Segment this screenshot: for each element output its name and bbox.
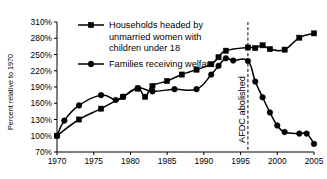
data-point-square [76,117,81,122]
data-point-circle [120,94,126,100]
x-tick-label: 1995 [231,156,250,166]
data-point-circle [304,131,310,137]
y-tick-label: 280% [31,33,53,43]
data-point-square [143,94,148,99]
data-point-square [179,72,184,77]
data-point-square [297,35,302,40]
y-tick-label: 190% [31,82,53,92]
data-point-circle [194,86,200,92]
data-point-circle [62,118,68,124]
data-point-square [223,48,228,53]
chart-figure: Percent relative to 1970 70%100%130%160%… [0,0,327,179]
data-point-circle [297,131,303,137]
y-axis-title: Percent relative to 1970 [6,54,15,130]
data-point-circle [223,55,229,61]
data-point-circle [98,92,104,98]
legend-label-text: Households headed by [109,20,203,30]
data-point-square [267,46,272,51]
legend-marker-circle [88,61,94,67]
chart-canvas: Percent relative to 1970 70%100%130%160%… [0,0,327,179]
data-point-circle [135,85,141,91]
data-point-circle [172,86,178,92]
legend-label-text: unmarried women with [109,32,201,42]
data-point-circle [216,63,222,69]
data-point-square [282,47,287,52]
x-tick-label: 1990 [195,156,214,166]
data-point-square [165,78,170,83]
y-tick-label: 250% [31,50,53,60]
x-tick-label: 1985 [158,156,177,166]
legend-marker-square [88,22,93,27]
data-point-circle [113,97,119,103]
data-point-circle [274,123,280,129]
y-tick-label: 220% [31,66,53,76]
data-point-circle [76,103,82,109]
data-point-square [150,83,155,88]
data-point-circle [208,72,214,78]
x-tick-label: 1970 [48,156,67,166]
x-tick-label: 1975 [84,156,103,166]
data-point-circle [150,89,156,95]
x-tick-label: 2000 [268,156,287,166]
y-tick-label: 160% [31,98,53,108]
y-axis-title-group: Percent relative to 1970 [6,54,15,130]
data-point-square [216,55,221,60]
data-point-square [245,45,250,50]
data-point-square [253,45,258,50]
data-point-circle [260,94,266,100]
data-point-circle [311,141,317,147]
data-point-circle [54,133,60,139]
x-tick-label: 2005 [305,156,324,166]
data-point-circle [245,58,251,64]
data-point-circle [282,129,288,135]
legend-label-text: Families receiving welfare [109,59,215,69]
y-tick-label: 310% [31,17,53,27]
data-point-circle [252,79,258,85]
data-point-square [98,106,103,111]
x-tick-label: 1980 [121,156,140,166]
data-point-square [260,43,265,48]
data-point-circle [230,58,236,64]
legend-label-text: children under 18 [109,43,180,53]
y-tick-label: 100% [31,131,53,141]
data-point-square [311,31,316,36]
y-tick-label: 130% [31,115,53,125]
data-point-circle [267,110,273,116]
afdc-abolished-label: AFDC abolished [237,76,247,143]
